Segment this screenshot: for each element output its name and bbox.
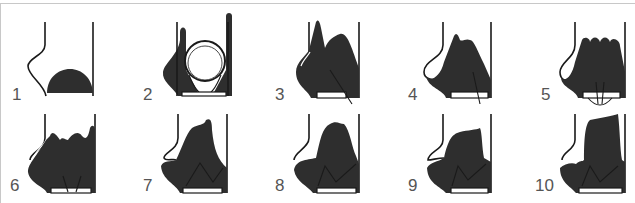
panel-label-7: 7 xyxy=(143,177,152,194)
panel-8 xyxy=(294,114,359,193)
panel-label-2: 2 xyxy=(143,86,152,103)
panel-1 xyxy=(28,22,93,96)
panel-6 xyxy=(28,114,95,193)
panel-label-5: 5 xyxy=(541,86,550,103)
panel-5 xyxy=(560,22,625,105)
panel-label-8: 8 xyxy=(275,177,284,194)
panel-label-9: 9 xyxy=(408,177,417,194)
panel-3 xyxy=(296,20,359,104)
stage-diagram: .ln { fill: none; stroke: #1a1a1a; strok… xyxy=(0,0,635,203)
panel-label-4: 4 xyxy=(408,86,417,103)
panel-10 xyxy=(560,114,625,193)
panel-4 xyxy=(424,22,491,104)
panel-label-10: 10 xyxy=(535,177,554,194)
panel-2 xyxy=(163,13,232,96)
panel-label-3: 3 xyxy=(275,86,284,103)
panel-9 xyxy=(427,114,491,193)
panel-label-1: 1 xyxy=(12,86,21,103)
panel-7 xyxy=(161,114,227,193)
panel-label-6: 6 xyxy=(10,177,19,194)
